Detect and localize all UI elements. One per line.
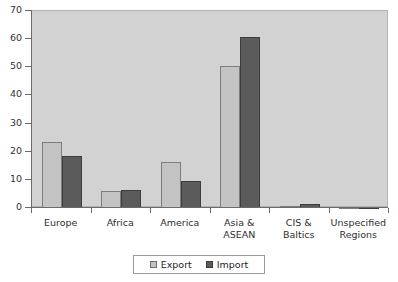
- x-axis-category-label: Africa: [88, 217, 154, 229]
- bar-export-asia-asean: [220, 66, 240, 208]
- bar-export-africa: [101, 191, 121, 208]
- bar-chart: 010203040506070 EuropeAfricaAmericaAsia …: [0, 0, 398, 282]
- y-axis-tick: [25, 123, 31, 124]
- y-axis-tick: [25, 179, 31, 180]
- chart-legend: Export Import: [133, 255, 265, 274]
- x-axis-category-label-line: America: [147, 217, 213, 229]
- y-axis-tick: [25, 10, 31, 11]
- x-axis-category-label-line: Regions: [326, 229, 392, 241]
- x-axis-category-label-line: Unspecified: [326, 217, 392, 229]
- legend-item-export: Export: [150, 260, 192, 270]
- x-axis-tick: [150, 208, 151, 213]
- x-axis-tick: [210, 208, 211, 213]
- bar-export-europe: [42, 142, 62, 208]
- legend-swatch-import-icon: [206, 261, 213, 268]
- legend-label-export: Export: [161, 260, 192, 270]
- bar-import-africa: [121, 190, 141, 208]
- x-axis-category-label: Asia &ASEAN: [207, 217, 273, 240]
- x-axis-category-label-line: Africa: [88, 217, 154, 229]
- y-axis-tick: [25, 38, 31, 39]
- y-axis-tick-label: 0: [0, 202, 22, 211]
- x-axis-category-label-line: CIS &: [266, 217, 332, 229]
- x-axis-category-label: CIS &Baltics: [266, 217, 332, 240]
- y-axis-tick-label: 10: [0, 174, 22, 183]
- y-axis-tick-label: 70: [0, 5, 22, 14]
- y-axis-line: [31, 10, 32, 208]
- x-axis-category-label: America: [147, 217, 213, 229]
- x-axis-category-label: UnspecifiedRegions: [326, 217, 392, 240]
- x-axis-category-label-line: Asia &: [207, 217, 273, 229]
- legend-label-import: Import: [217, 260, 249, 270]
- bars-layer: [32, 11, 387, 206]
- x-axis-category-label-line: ASEAN: [207, 229, 273, 241]
- y-axis-tick-label: 50: [0, 61, 22, 70]
- x-axis-tick: [329, 208, 330, 213]
- x-axis-tick: [388, 208, 389, 213]
- x-axis-category-label-line: Baltics: [266, 229, 332, 241]
- bar-export-america: [161, 162, 181, 208]
- bar-import-asia-asean: [240, 37, 260, 208]
- x-axis-category-label-line: Europe: [28, 217, 94, 229]
- legend-item-import: Import: [206, 260, 249, 270]
- x-axis-tick: [31, 208, 32, 213]
- x-axis-tick: [91, 208, 92, 213]
- plot-area: [31, 10, 388, 207]
- y-axis-tick: [25, 151, 31, 152]
- y-axis-tick-label: 20: [0, 146, 22, 155]
- y-axis-tick-label: 60: [0, 33, 22, 42]
- y-axis-tick: [25, 94, 31, 95]
- y-axis-tick-label: 30: [0, 118, 22, 127]
- y-axis-tick-label: 40: [0, 89, 22, 98]
- legend-swatch-export-icon: [150, 261, 157, 268]
- x-axis-category-label: Europe: [28, 217, 94, 229]
- bar-import-europe: [62, 156, 82, 208]
- bar-import-america: [181, 181, 201, 208]
- y-axis-tick: [25, 66, 31, 67]
- x-axis-tick: [269, 208, 270, 213]
